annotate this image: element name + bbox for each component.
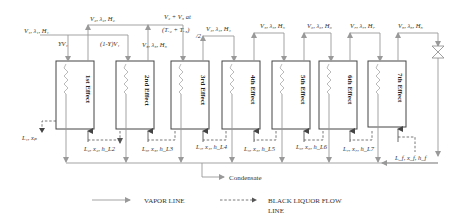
effect-2-label: 2nd Effect <box>143 75 151 107</box>
effect-2: 2nd Effect <box>116 61 154 129</box>
label-v23-top: V₂ + V₃ at <box>164 13 191 20</box>
label-v3: V₃, λ₃, H₃ <box>142 41 167 48</box>
legend-vapor-label: VAPOR LINE <box>144 197 185 205</box>
label-v5: V₅, λ₅, H₅ <box>260 22 285 29</box>
legend-liquor: BLACK LIQUOR FLOW LINE <box>220 197 342 215</box>
label-lf: L_f, x_f, h_f <box>394 154 428 161</box>
label-l4: L₄, x₄, h_L4 <box>195 143 228 150</box>
label-l6: L₆, x₆, h_L6 <box>295 143 328 150</box>
effect-1-label: 1st Effect <box>84 75 92 104</box>
label-l3: L₃, x₃, h_L3 <box>141 145 174 152</box>
legend-liquor-label-1: BLACK LIQUOR FLOW <box>268 197 342 205</box>
label-l7: L₇, x₇, h_L7 <box>342 145 375 152</box>
label-v4: V₄, λ₄, H₄ <box>206 25 231 32</box>
label-v6: V₆, λ₆, H₆ <box>307 22 332 29</box>
legend-vapor: VAPOR LINE <box>92 197 185 205</box>
effect-4: 4th Effect <box>222 61 260 129</box>
effect-4-label: 4th Effect <box>249 75 257 105</box>
effect-1: 1st Effect <box>56 61 94 129</box>
label-v1: V₁, λ₁, H₁ <box>24 27 49 34</box>
label-half: /2 <box>195 32 202 39</box>
legend: VAPOR LINE BLACK LIQUOR FLOW LINE <box>92 197 342 215</box>
effect-3: 3rd Effect <box>171 61 209 129</box>
label-v23-temp: (Tᵥ₂ + Tᵥ₃) <box>162 26 189 34</box>
effect-6-label: 6th Effect <box>346 75 354 105</box>
label-l2: L₂, x₂, h_L2 <box>83 145 116 152</box>
label-condensate: Condensate <box>229 174 262 182</box>
valve-icon <box>432 46 444 58</box>
effect-6: 6th Effect <box>319 61 357 129</box>
label-yv1: YV₁ <box>58 40 68 47</box>
evaporator-diagram: 1st Effect 2nd Effect 3rd Effect 4th Eff… <box>0 0 467 223</box>
label-v7: V₇, λ₇, H₇ <box>350 22 375 29</box>
effect-3-label: 3rd Effect <box>199 75 207 106</box>
label-v8: V₈, λ₈, H₈ <box>398 22 423 29</box>
label-l5: L₅, x₅, h_L5 <box>243 145 276 152</box>
effect-7: 7th Effect <box>368 61 406 127</box>
legend-liquor-label-2: LINE <box>268 207 284 215</box>
effect-7-label: 7th Effect <box>396 73 404 103</box>
effect-5: 5th Effect <box>272 61 310 129</box>
label-v2: V₂, λ₂, H₂ <box>90 15 115 22</box>
label-one-minus-y: (1-Y)V₁ <box>100 40 120 48</box>
label-l1: L₁, xₚ <box>21 134 37 141</box>
effect-5-label: 5th Effect <box>299 75 307 105</box>
